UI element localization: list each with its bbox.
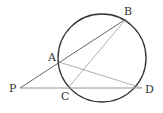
label-A: A xyxy=(47,51,57,64)
circle xyxy=(58,14,146,102)
label-P: P xyxy=(9,82,17,95)
geometry-diagram: A B C D P xyxy=(0,0,163,113)
label-C: C xyxy=(61,90,69,103)
segment-CB xyxy=(68,19,126,88)
label-B: B xyxy=(124,5,132,18)
label-D: D xyxy=(145,83,154,96)
